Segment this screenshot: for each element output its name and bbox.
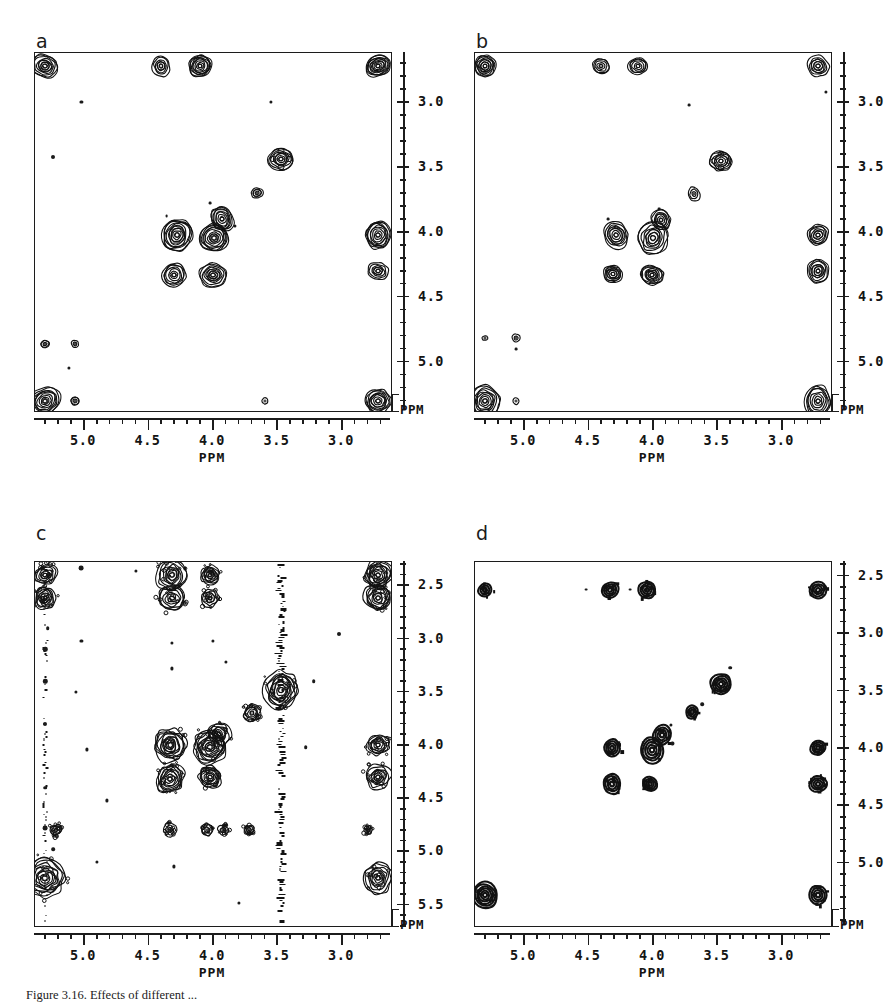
- x-tick-minor: [742, 933, 744, 939]
- y-tick-label: 3.5: [858, 158, 884, 174]
- y-tick-minor: [840, 850, 846, 852]
- x-tick-minor: [225, 933, 227, 939]
- x-tick-minor: [807, 418, 809, 424]
- x-tick-label: 5.0: [510, 432, 536, 448]
- x-tick-minor: [96, 933, 98, 939]
- contour-peak: [183, 52, 217, 83]
- contour-peak: [34, 854, 69, 902]
- x-tick-minor: [264, 933, 266, 939]
- x-tick-minor: [536, 418, 538, 424]
- contour-peak: [804, 734, 832, 762]
- y-tick-minor: [840, 621, 846, 623]
- y-axis-spine: [843, 561, 845, 925]
- y-tick-major: [837, 101, 849, 103]
- contour-peak: [256, 392, 274, 410]
- plot-area-d[interactable]: [474, 561, 832, 927]
- x-tick-minor: [626, 933, 628, 939]
- x-tick-label: 5.0: [510, 947, 536, 963]
- noise-speck: [170, 667, 173, 670]
- y-tick-minor: [400, 893, 406, 895]
- x-tick-minor: [820, 418, 822, 424]
- x-axis-c: 5.04.54.03.53.0: [34, 931, 390, 947]
- y-tick-minor: [840, 563, 846, 565]
- contour-peak: [632, 575, 662, 605]
- ppm-bracket: [392, 394, 399, 412]
- x-tick-minor: [225, 418, 227, 424]
- y-tick-major: [837, 575, 849, 577]
- contour-peak: [193, 217, 235, 259]
- contour-peak: [192, 759, 228, 795]
- contour-peak: [157, 215, 197, 255]
- y-tick-minor: [840, 153, 846, 155]
- y-tick-major: [837, 296, 849, 298]
- panel-label-c: c: [36, 522, 46, 544]
- ppm-bracket: [832, 394, 839, 412]
- contour-peak: [263, 141, 299, 177]
- y-tick-minor: [840, 598, 846, 600]
- x-tick-minor: [575, 933, 577, 939]
- y-tick-label: 4.0: [858, 739, 884, 755]
- y-tick-minor: [400, 755, 406, 757]
- contour-peak: [238, 699, 266, 727]
- y-tick-minor: [400, 387, 406, 389]
- y-tick-minor: [840, 244, 846, 246]
- y-axis-b: 3.03.54.04.55.0: [836, 52, 854, 410]
- x-tick-minor: [626, 418, 628, 424]
- contour-peak: [34, 582, 61, 614]
- noise-speck: [85, 748, 88, 751]
- x-tick-label: 3.5: [264, 432, 290, 448]
- contour-peak: [704, 144, 738, 178]
- contour-peak: [152, 761, 188, 797]
- x-tick-major: [276, 418, 278, 430]
- contour-peak: [622, 52, 654, 82]
- x-tick-minor: [109, 418, 111, 424]
- x-tick-minor: [160, 418, 162, 424]
- contour-peak: [595, 575, 625, 605]
- y-tick-minor: [840, 724, 846, 726]
- x-tick-minor: [199, 418, 201, 424]
- plot-area-c[interactable]: [34, 561, 392, 927]
- x-tick-label: 4.0: [639, 947, 665, 963]
- x-tick-minor: [704, 933, 706, 939]
- noise-speck: [585, 588, 588, 591]
- x-tick-minor: [665, 418, 667, 424]
- contour-peak: [245, 181, 269, 205]
- x-tick-minor: [549, 933, 551, 939]
- x-tick-label: 4.5: [135, 432, 161, 448]
- x-tick-minor: [264, 418, 266, 424]
- x-axis-b: 5.04.54.03.53.0: [474, 416, 830, 432]
- y-tick-minor: [400, 205, 406, 207]
- plot-area-a[interactable]: [34, 52, 392, 412]
- y-tick-minor: [400, 680, 406, 682]
- x-axis-unit-label: PPM: [199, 450, 225, 465]
- y-tick-major: [397, 850, 409, 852]
- contour-peak: [361, 728, 392, 762]
- x-tick-minor: [678, 933, 680, 939]
- y-tick-minor: [400, 309, 406, 311]
- y-tick-major: [397, 904, 409, 906]
- x-tick-label: 3.0: [768, 432, 794, 448]
- contour-peak: [212, 819, 234, 841]
- x-tick-label: 4.0: [199, 947, 225, 963]
- y-tick-minor: [400, 218, 406, 220]
- plot-area-b[interactable]: [474, 52, 832, 412]
- x-tick-minor: [549, 418, 551, 424]
- y-tick-label: 4.5: [418, 288, 444, 304]
- x-tick-minor: [768, 933, 770, 939]
- y-tick-minor: [400, 861, 406, 863]
- contour-peak: [474, 876, 504, 914]
- y-tick-label: 3.0: [858, 93, 884, 109]
- y-tick-major: [397, 797, 409, 799]
- y-tick-minor: [400, 776, 406, 778]
- y-tick-major: [837, 747, 849, 749]
- y-tick-label: 3.0: [418, 93, 444, 109]
- x-tick-minor: [536, 933, 538, 939]
- y-tick-major: [837, 862, 849, 864]
- y-tick-label: 4.0: [418, 736, 444, 752]
- y-tick-minor: [840, 309, 846, 311]
- y-tick-minor: [400, 659, 406, 661]
- x-tick-minor: [600, 418, 602, 424]
- y-tick-major: [397, 584, 409, 586]
- y-tick-minor: [400, 348, 406, 350]
- y-tick-minor: [400, 374, 406, 376]
